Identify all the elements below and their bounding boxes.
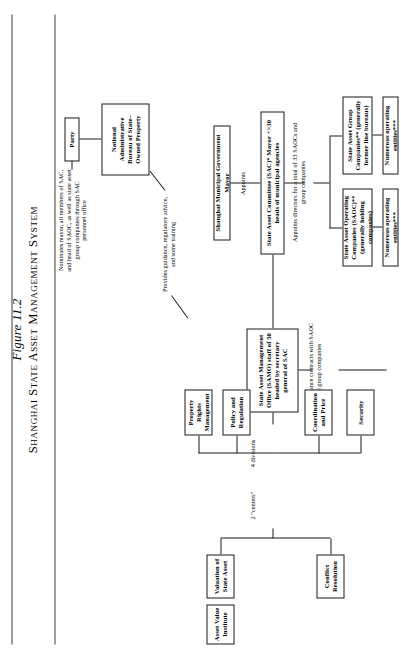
connector-sac-down-2 bbox=[313, 182, 329, 183]
note-appoints: Appoints bbox=[238, 156, 246, 210]
box-operating-entities-left: Numerous operating entities*** bbox=[382, 188, 398, 266]
org-chart: Party National Administrative Bureau of … bbox=[50, 0, 398, 658]
box-valuation-state-asset: Valuation of State Asset bbox=[206, 554, 234, 598]
box-samo: State Asset Management Office (SAMO) sta… bbox=[246, 328, 298, 412]
box-sac: State Asset Committee (SAC)* Mayor +>30 … bbox=[260, 111, 284, 254]
connector-div-security bbox=[360, 435, 361, 453]
figure-caption: Shanghai State Asset Management System bbox=[25, 0, 41, 658]
box-policy-regulation: Policy and Regulation bbox=[222, 389, 250, 435]
box-asset-value-institute: Asset Value Institute bbox=[206, 604, 234, 644]
box-conflict-resolution: Conflict Resolution bbox=[316, 554, 344, 598]
figure-page: Figure 11.2 Shanghai State Asset Managem… bbox=[0, 0, 401, 658]
connector-saoc-sagc-bus bbox=[329, 136, 330, 228]
connector-center-conflict bbox=[330, 538, 331, 554]
connector-samo-down-2 bbox=[338, 369, 386, 370]
connector-party-to-bureau bbox=[79, 138, 101, 139]
connector-nominates bbox=[71, 160, 72, 169]
figure-title-block: Figure 11.2 Shanghai State Asset Managem… bbox=[8, 0, 41, 658]
connector-center-valuation bbox=[220, 538, 221, 554]
box-national-bureau: National Administrative Bureau of State–… bbox=[101, 103, 149, 175]
connector-to-sagc bbox=[329, 135, 342, 136]
box-security: Security bbox=[346, 389, 374, 435]
box-saoc: State Asset Operating Companies (SAOC)**… bbox=[342, 188, 372, 266]
figure-number: Figure 11.2 bbox=[8, 0, 24, 658]
rotated-figure-canvas: Figure 11.2 Shanghai State Asset Managem… bbox=[0, 0, 401, 658]
note-nominates: Nominates mayor, all members of SAC, and… bbox=[56, 168, 87, 272]
connector-saoc-to-entities bbox=[372, 226, 382, 227]
box-property-rights: Property Rights Management bbox=[184, 389, 212, 435]
box-coordination-price: Coordination and Price bbox=[304, 389, 332, 435]
connector-samo-to-divisions bbox=[272, 412, 273, 424]
divisions-bus-up bbox=[198, 452, 272, 453]
title-rule-top bbox=[11, 14, 12, 644]
box-mayor: Shanghai Municipal Government Mayor bbox=[213, 125, 230, 240]
connector-sac-to-samo bbox=[272, 254, 273, 328]
note-two-centers: 2 "centers" bbox=[248, 480, 256, 530]
connector-sagc-to-entities bbox=[372, 134, 382, 135]
box-operating-entities-right: Numerous operating entities*** bbox=[382, 96, 398, 174]
note-provides-guidance: Provides guidance, regulatory advice, an… bbox=[160, 196, 176, 292]
connector-div-policy bbox=[236, 435, 237, 453]
box-sagc: State Asset Group Companies** (generally… bbox=[342, 96, 372, 174]
connector-samo-to-centers bbox=[272, 528, 273, 538]
connector-div-property bbox=[198, 435, 199, 453]
connector-to-saoc bbox=[329, 227, 342, 228]
note-appoints-directors: Appoints directors for a total of 33 SAO… bbox=[290, 120, 306, 244]
divisions-bus bbox=[272, 452, 360, 453]
box-party: Party bbox=[64, 117, 79, 161]
connector-div-coordination bbox=[318, 435, 319, 453]
centers-bus bbox=[220, 537, 330, 538]
leader-line-bureau bbox=[149, 170, 165, 190]
leader-line-samo bbox=[171, 295, 188, 318]
